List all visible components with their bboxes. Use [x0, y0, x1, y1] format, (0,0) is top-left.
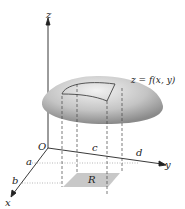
- y-axis-label: y: [165, 160, 171, 170]
- x-axis: [13, 148, 48, 194]
- x-axis-label: x: [5, 198, 11, 208]
- x-tick-a: a: [26, 157, 32, 167]
- z-axis-label: z: [46, 10, 51, 20]
- y-axis: [48, 148, 162, 164]
- y-tick-d: d: [136, 148, 142, 158]
- x-tick-b: b: [12, 176, 18, 186]
- y-tick-c: c: [92, 143, 98, 153]
- region-label: R: [88, 175, 96, 185]
- surface-label: z = f(x, y): [131, 76, 175, 85]
- origin-label: O: [38, 142, 46, 152]
